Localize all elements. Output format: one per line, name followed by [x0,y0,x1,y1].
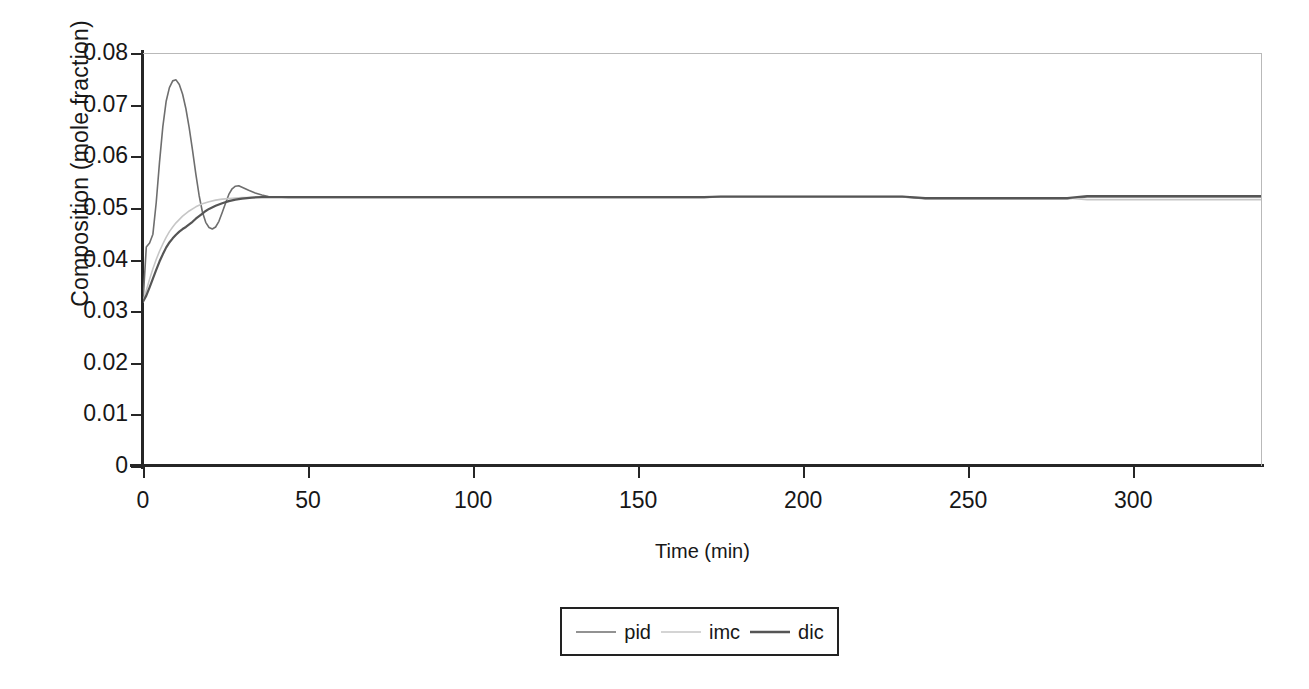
x-tick-mark [308,467,310,478]
x-tick-mark [968,467,970,478]
x-tick-label: 50 [268,487,348,514]
legend-swatch-imc [660,627,702,637]
y-tick-label: 0.03 [38,299,128,322]
chart-figure: Composition (mole fraction) 00.010.020.0… [0,0,1309,689]
series-lines [143,53,1262,466]
y-tick-mark [131,53,143,55]
x-tick-label: 300 [1093,487,1173,514]
legend-swatch-dic [749,627,791,637]
legend-label: pid [624,622,651,642]
x-axis-title: Time (min) [143,540,1262,563]
y-tick-label: 0.06 [38,144,128,167]
y-tick-label: 0.07 [38,93,128,116]
y-tick-label: 0.01 [38,402,128,425]
plot-frame-right [1261,53,1262,466]
y-axis-tick-labels: 00.010.020.030.040.050.060.070.08 [28,0,128,500]
x-tick-mark [143,467,145,478]
plot-area [143,53,1262,466]
y-tick-mark [131,260,143,262]
y-tick-mark [131,466,143,468]
y-tick-label: 0.05 [38,196,128,219]
chart-legend: pidimcdic [560,607,839,656]
x-tick-label: 200 [763,487,843,514]
series-line-pid [143,80,1262,302]
series-line-dic [143,196,1262,302]
y-tick-label: 0.04 [38,248,128,271]
x-tick-label: 0 [103,487,183,514]
y-tick-mark [131,414,143,416]
legend-item-imc[interactable]: imc [660,622,740,642]
x-tick-label: 100 [433,487,513,514]
x-tick-mark [1133,467,1135,478]
series-line-imc [143,197,1262,302]
legend-item-dic[interactable]: dic [749,622,824,642]
plot-frame-top [143,53,1262,54]
x-tick-mark [473,467,475,478]
legend-label: dic [798,622,824,642]
y-tick-mark [131,363,143,365]
x-tick-mark [803,467,805,478]
y-tick-label: 0.08 [38,41,128,64]
y-tick-label: 0 [38,454,128,477]
x-tick-mark [638,467,640,478]
y-tick-mark [131,105,143,107]
y-tick-mark [131,311,143,313]
y-tick-mark [131,208,143,210]
legend-swatch-pid [575,627,617,637]
x-tick-label: 150 [598,487,678,514]
x-tick-label: 250 [928,487,1008,514]
legend-label: imc [709,622,740,642]
y-tick-label: 0.02 [38,351,128,374]
y-tick-mark [131,156,143,158]
legend-item-pid[interactable]: pid [575,622,651,642]
